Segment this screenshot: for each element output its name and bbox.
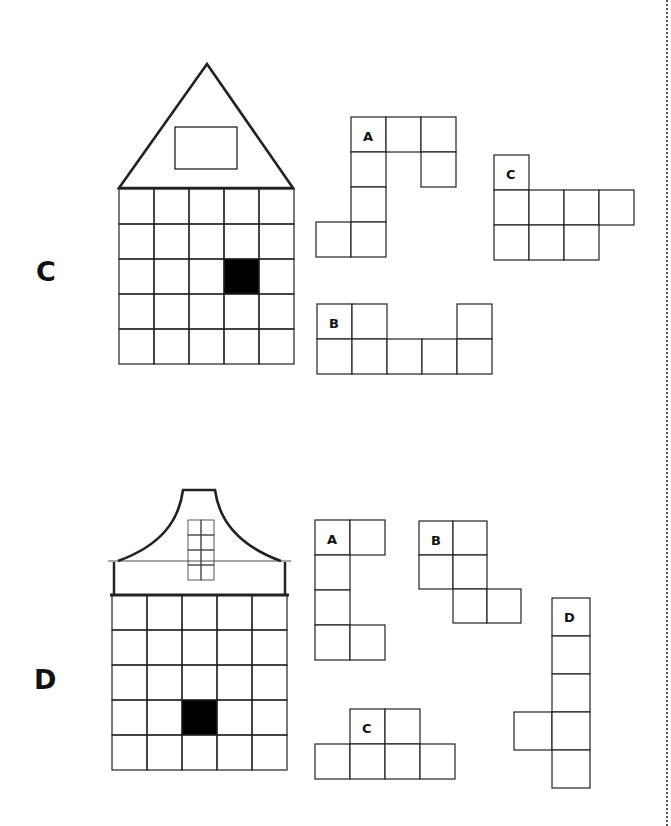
house-grid-cell xyxy=(252,700,287,735)
house-grid-cell xyxy=(252,665,287,700)
piece-cell xyxy=(350,520,385,555)
house-grid-cell xyxy=(252,735,287,770)
house-grid-cell xyxy=(189,329,224,364)
house-grid-cell xyxy=(154,259,189,294)
piece-label: A xyxy=(363,129,373,144)
house-filled-cell xyxy=(182,700,217,735)
house-grid-cell xyxy=(224,329,259,364)
piece-label: A xyxy=(327,532,337,547)
house-grid-cell xyxy=(147,595,182,630)
piece-cell xyxy=(385,744,420,779)
piece-cell xyxy=(420,744,455,779)
piece-a: A xyxy=(315,520,385,660)
house-grid-cell xyxy=(112,595,147,630)
house-grid-cell xyxy=(252,595,287,630)
house-grid-cell xyxy=(224,294,259,329)
house-grid-cell xyxy=(182,630,217,665)
piece-b: B xyxy=(317,304,492,374)
piece-cell xyxy=(387,339,422,374)
house-grid-cell xyxy=(112,665,147,700)
piece-cell xyxy=(494,190,529,225)
house-grid-cell xyxy=(259,294,294,329)
house-grid-cell xyxy=(224,189,259,224)
piece-cell xyxy=(564,190,599,225)
piece-cell xyxy=(316,222,351,257)
piece-cell xyxy=(385,709,420,744)
piece-cell xyxy=(599,190,634,225)
piece-cell xyxy=(352,339,387,374)
house-grid-cell xyxy=(154,189,189,224)
house-grid-cell xyxy=(252,630,287,665)
house-grid-cell xyxy=(119,259,154,294)
house-grid-cell xyxy=(259,189,294,224)
piece-cell xyxy=(552,636,590,674)
house-grid-cell xyxy=(182,665,217,700)
piece-cell xyxy=(351,187,386,222)
puzzle-canvas: ACBABDC xyxy=(0,0,671,826)
piece-cell xyxy=(350,744,385,779)
piece-cell xyxy=(386,117,421,152)
piece-cell xyxy=(421,117,456,152)
piece-cell xyxy=(315,590,350,625)
house-grid-cell xyxy=(147,630,182,665)
house-grid-cell xyxy=(189,189,224,224)
piece-cell xyxy=(457,339,492,374)
house-grid-cell xyxy=(259,259,294,294)
piece-cell xyxy=(564,225,599,260)
piece-cell xyxy=(487,589,521,623)
house-grid-cell xyxy=(112,735,147,770)
house-grid-cell xyxy=(147,665,182,700)
piece-cell xyxy=(529,190,564,225)
piece-c: C xyxy=(494,155,634,260)
roof-window-pane xyxy=(188,535,201,550)
house-grid-cell xyxy=(119,189,154,224)
piece-cell xyxy=(351,152,386,187)
house-grid-cell xyxy=(119,224,154,259)
roof-window xyxy=(175,127,237,169)
house-grid-cell xyxy=(217,630,252,665)
piece-b: B xyxy=(419,521,521,623)
house-grid-cell xyxy=(259,224,294,259)
piece-cell xyxy=(317,339,352,374)
house-grid-cell xyxy=(154,329,189,364)
house-grid-cell xyxy=(182,595,217,630)
roof-window-pane xyxy=(201,565,214,580)
roof-window-pane xyxy=(201,550,214,565)
house-grid-cell xyxy=(154,224,189,259)
house-grid-cell xyxy=(147,735,182,770)
house xyxy=(119,64,294,364)
roof-window-pane xyxy=(188,565,201,580)
puzzle-c: ACB xyxy=(119,64,634,374)
piece-cell xyxy=(552,712,590,750)
piece-cell xyxy=(457,304,492,339)
house xyxy=(108,490,291,770)
piece-cell xyxy=(453,521,487,555)
house-grid-cell xyxy=(154,294,189,329)
piece-a: A xyxy=(316,117,456,257)
house-filled-cell xyxy=(224,259,259,294)
piece-cell xyxy=(350,625,385,660)
piece-cell xyxy=(453,555,487,589)
piece-cell xyxy=(529,225,564,260)
piece-cell xyxy=(352,304,387,339)
house-grid-cell xyxy=(217,595,252,630)
piece-cell xyxy=(315,744,350,779)
roof-window-pane xyxy=(188,520,201,535)
piece-label: B xyxy=(431,533,441,548)
piece-label: C xyxy=(506,167,516,182)
house-grid-cell xyxy=(189,294,224,329)
piece-cell xyxy=(315,555,350,590)
piece-cell xyxy=(315,625,350,660)
piece-label: C xyxy=(362,721,372,736)
house-grid-cell xyxy=(217,735,252,770)
house-grid-cell xyxy=(217,700,252,735)
house-grid-cell xyxy=(259,329,294,364)
piece-c: C xyxy=(315,709,455,779)
roof-window-pane xyxy=(201,535,214,550)
puzzle-d: ABDC xyxy=(108,490,590,788)
piece-label: D xyxy=(564,610,575,625)
house-grid-cell xyxy=(224,224,259,259)
roof-window-pane xyxy=(201,520,214,535)
house-grid-cell xyxy=(112,630,147,665)
piece-cell xyxy=(419,555,453,589)
